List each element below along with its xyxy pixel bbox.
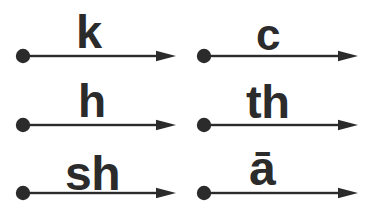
arrow-label: c xyxy=(256,13,280,57)
arrow-shaft xyxy=(23,124,158,126)
arrowhead-icon xyxy=(338,120,358,130)
start-dot-icon xyxy=(197,186,211,200)
arrow-label: ā xyxy=(249,145,275,193)
arrow-label: k xyxy=(76,8,102,55)
arrow-shape xyxy=(0,0,367,213)
arrow-shape xyxy=(0,0,367,213)
arrow-group-: ā xyxy=(0,0,367,213)
start-dot-icon xyxy=(16,118,30,132)
arrow-group-c: c xyxy=(0,0,367,213)
arrow-shape xyxy=(0,0,367,213)
phonetic-arrow-diagram: kchthshā xyxy=(0,0,367,213)
arrowhead-icon xyxy=(156,120,176,130)
arrow-shaft xyxy=(204,124,340,126)
arrow-label: h xyxy=(78,78,106,124)
arrow-shape xyxy=(0,0,367,213)
arrow-group-sh: sh xyxy=(0,0,367,213)
arrow-group-k: k xyxy=(0,0,367,213)
arrowhead-icon xyxy=(156,188,176,198)
start-dot-icon xyxy=(16,49,30,63)
arrow-shaft xyxy=(23,192,158,194)
arrow-shaft xyxy=(204,192,340,194)
arrow-group-h: h xyxy=(0,0,367,213)
start-dot-icon xyxy=(197,49,211,63)
arrowhead-icon xyxy=(156,51,176,61)
arrow-label: th xyxy=(246,78,289,125)
arrow-label: sh xyxy=(65,150,120,198)
arrow-shaft xyxy=(23,55,158,57)
arrow-shape xyxy=(0,0,367,213)
arrow-shape xyxy=(0,0,367,213)
arrow-shaft xyxy=(204,55,340,57)
start-dot-icon xyxy=(16,186,30,200)
arrow-group-th: th xyxy=(0,0,367,213)
start-dot-icon xyxy=(197,118,211,132)
arrowhead-icon xyxy=(338,51,358,61)
arrowhead-icon xyxy=(338,188,358,198)
